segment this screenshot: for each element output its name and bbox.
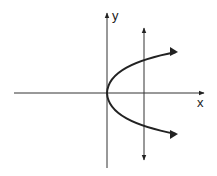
parabola-lower-arrow-icon [170, 130, 178, 139]
x-axis-label: x [197, 95, 204, 110]
parabola-upper-arrow-icon [170, 47, 178, 56]
y-axis-label: y [112, 8, 119, 23]
diagram-canvas: y x [0, 0, 217, 176]
